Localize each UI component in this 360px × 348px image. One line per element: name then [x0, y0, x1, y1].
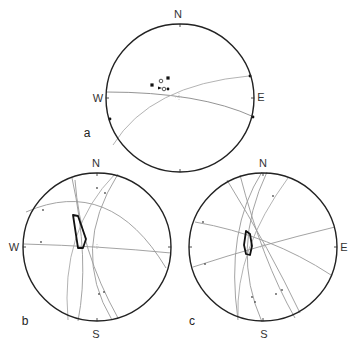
great-circle — [26, 201, 166, 268]
west-label-a: W — [93, 93, 103, 104]
filled-square-marker — [150, 83, 153, 86]
pole-tick-marker — [281, 289, 283, 291]
pole-tick-marker — [275, 293, 277, 295]
pole-tick-marker — [96, 187, 98, 189]
pole-tick-marker — [254, 301, 256, 303]
cardinal-tick-marks — [106, 24, 254, 172]
panel-label-a: a — [84, 127, 91, 139]
primitive-circle — [106, 24, 254, 172]
north-label-b: N — [92, 158, 100, 169]
pole-tick-marker — [204, 263, 206, 265]
intersection-polygon — [73, 215, 86, 248]
open-circle-marker — [162, 87, 166, 91]
center-cross-icon — [175, 93, 183, 101]
great-circle — [106, 92, 254, 117]
great-circle — [240, 175, 295, 318]
pole-tick-marker — [98, 293, 100, 295]
north-label-c: N — [259, 158, 267, 169]
great-circle — [24, 244, 171, 253]
stereonet-c — [189, 172, 337, 322]
panel-label-c: c — [189, 315, 195, 327]
east-label-c: E — [340, 242, 347, 253]
stereonet-b — [23, 173, 171, 321]
north-label-a: N — [174, 9, 182, 20]
stereonet-figure — [0, 0, 360, 348]
triangle-marker — [158, 87, 162, 90]
great-circle — [227, 180, 300, 313]
pole-tick-marker — [202, 221, 204, 223]
pole-tick-marker — [40, 241, 42, 243]
pole-tick-marker — [42, 209, 44, 211]
pole-tick-marker — [251, 296, 253, 298]
filled-square-marker — [166, 76, 169, 79]
pole-tick-marker — [104, 192, 106, 194]
stereonet-a — [106, 24, 254, 172]
panel-label-b: b — [22, 315, 29, 327]
pole-tick-marker — [103, 291, 105, 293]
pole-tick-marker — [272, 195, 274, 197]
filled-dot-marker — [167, 88, 170, 91]
east-label-a: E — [257, 92, 264, 103]
south-label-c: S — [260, 329, 267, 340]
great-circle — [113, 76, 249, 145]
open-circle-marker — [159, 79, 163, 83]
south-label-b: S — [92, 329, 99, 340]
west-label-b: W — [9, 242, 19, 253]
